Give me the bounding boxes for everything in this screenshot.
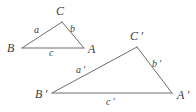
similar-triangles-figure: C B A a b c C ′ B ′ A ′ a ′ b ′ c ′ <box>0 0 196 112</box>
vertex-label-a: A <box>88 43 95 55</box>
vertex-label-c: C <box>56 5 64 17</box>
side-label-a: a <box>34 25 39 35</box>
side-label-a-prime: a ′ <box>76 65 85 75</box>
side-label-b-prime: b ′ <box>152 59 161 69</box>
triangles-diagram <box>0 0 196 112</box>
side-a-line <box>22 22 62 48</box>
vertex-label-c-prime: C ′ <box>130 30 143 42</box>
vertex-label-b: B <box>7 42 14 54</box>
side-label-c-prime: c ′ <box>106 97 115 107</box>
side-label-c: c <box>49 48 53 58</box>
side-label-b: b <box>70 24 75 34</box>
vertex-label-b-prime: B ′ <box>35 88 47 100</box>
triangle-a-prime-b-prime-c-prime-outline <box>52 47 172 93</box>
side-b-prime-line <box>137 47 172 93</box>
vertex-label-a-prime: A ′ <box>177 89 189 101</box>
